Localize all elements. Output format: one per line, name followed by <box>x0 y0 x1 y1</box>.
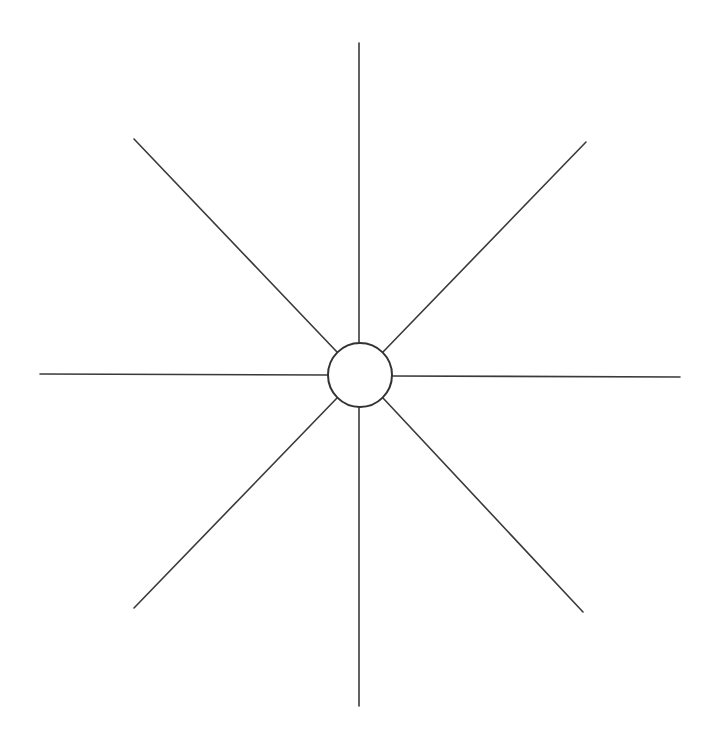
spoke-west <box>40 374 328 375</box>
radial-spoke-diagram <box>0 0 713 749</box>
hub-circle <box>328 343 392 407</box>
spoke-east <box>392 376 680 377</box>
